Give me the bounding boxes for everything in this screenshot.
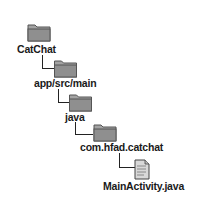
folder-icon (92, 122, 118, 142)
java-file-icon (134, 159, 150, 180)
folder-icon (53, 58, 78, 78)
node-label: com.hfad.catchat (80, 142, 163, 153)
tree-connector (119, 153, 135, 168)
folder-icon (27, 22, 51, 42)
folder-icon (68, 92, 93, 112)
tree-connector (75, 122, 93, 135)
node-label: app/src/main (34, 78, 96, 89)
node-label: MainActivity.java (103, 181, 184, 192)
node-label: CatChat (17, 44, 56, 55)
